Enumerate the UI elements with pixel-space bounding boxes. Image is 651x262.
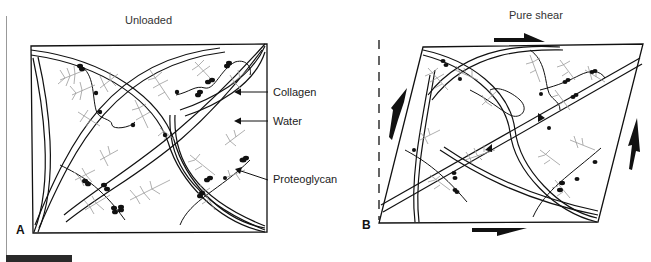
- label-pointers-a: [237, 92, 268, 180]
- hyaluronate-chains-b: [405, 50, 605, 217]
- shear-arrow-bottom-icon: [472, 228, 527, 236]
- diagram-canvas: [0, 0, 651, 262]
- shear-arrow-top-icon: [494, 33, 545, 42]
- panel-b-diagram: [379, 33, 643, 236]
- link-proteins-a: [77, 61, 249, 215]
- hyaluronate-chains-a: [60, 61, 250, 225]
- shear-arrow-right-icon: [628, 118, 640, 170]
- collagen-fibers-a: [31, 44, 265, 232]
- panel-a-diagram: [31, 44, 268, 233]
- collagen-fibers-b: [381, 46, 642, 222]
- shear-arrow-left-icon: [389, 88, 407, 140]
